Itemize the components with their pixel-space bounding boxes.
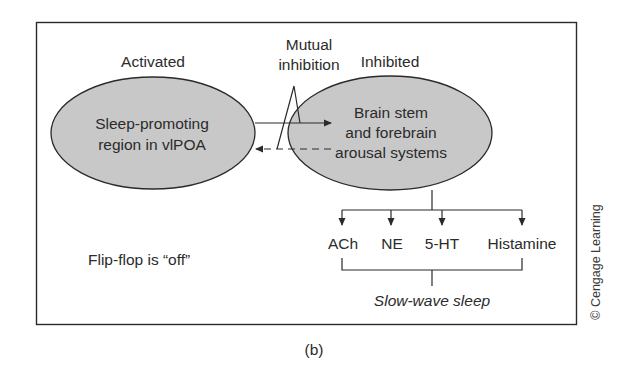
flip-flop-state-caption: Flip-flop is “off” (88, 251, 190, 269)
output-ne: NE (381, 235, 403, 253)
slow-wave-sleep-label: Slow-wave sleep (374, 292, 490, 310)
panel-label: (b) (305, 341, 324, 359)
activated-label: Activated (121, 53, 185, 71)
sleep-promoting-region-text: Sleep-promoting region in vlPOA (95, 113, 209, 155)
arousal-systems-text: Brain stem and forebrain arousal systems (335, 103, 447, 163)
output-ach: ACh (328, 235, 358, 253)
output-histamine: Histamine (488, 235, 557, 253)
output-5ht: 5-HT (425, 235, 459, 253)
copyright-notice: © Cengage Learning (589, 204, 603, 320)
inhibited-label: Inhibited (361, 53, 420, 71)
mutual-inhibition-label: Mutual inhibition (278, 35, 339, 75)
